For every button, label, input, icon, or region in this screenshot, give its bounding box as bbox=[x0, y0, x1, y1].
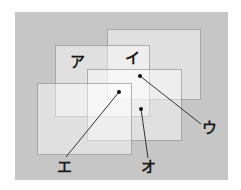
label-i: イ bbox=[125, 51, 140, 66]
pointer-line bbox=[66, 92, 119, 157]
label-e: エ bbox=[57, 160, 72, 175]
pointer-dot bbox=[117, 90, 121, 94]
overlapping-rectangles-diagram: ア イ ウ エ オ bbox=[0, 0, 241, 190]
pointer-lines-layer bbox=[0, 0, 241, 190]
label-a: ア bbox=[70, 55, 85, 70]
label-u: ウ bbox=[202, 121, 217, 136]
pointer-line bbox=[140, 76, 201, 124]
pointer-line bbox=[141, 109, 148, 158]
pointer-dot bbox=[139, 107, 143, 111]
label-o: オ bbox=[141, 160, 156, 175]
pointer-dot bbox=[138, 74, 142, 78]
